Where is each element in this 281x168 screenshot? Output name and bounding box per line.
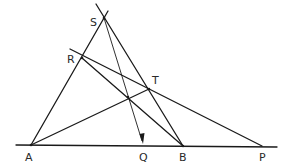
point-s bbox=[103, 17, 106, 20]
label-b: B bbox=[179, 151, 187, 164]
label-r: R bbox=[67, 53, 75, 66]
point-x bbox=[127, 96, 129, 98]
point-a bbox=[30, 144, 33, 147]
line-s-q bbox=[104, 18, 142, 141]
arrow-head-icon bbox=[140, 133, 145, 144]
line-a-t bbox=[31, 89, 149, 145]
point-t bbox=[148, 88, 150, 90]
label-s: S bbox=[90, 16, 97, 29]
point-r bbox=[81, 57, 84, 60]
line-a-s bbox=[31, 11, 108, 145]
baseline-line bbox=[16, 145, 277, 147]
label-p: P bbox=[259, 151, 266, 164]
line-s-b bbox=[96, 4, 183, 146]
line-r-b bbox=[82, 58, 183, 146]
label-q: Q bbox=[139, 151, 148, 164]
label-t: T bbox=[151, 74, 159, 87]
geometry-diagram: S R T A Q B P bbox=[0, 0, 281, 168]
label-a: A bbox=[25, 151, 33, 164]
point-b bbox=[182, 145, 184, 147]
